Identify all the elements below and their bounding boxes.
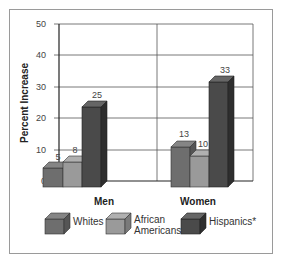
y-tick-labels: 0 10 20 30 40 50 (36, 19, 46, 186)
legend-item-hispanics: Hispanics* (181, 213, 256, 234)
value-label: 13 (179, 129, 189, 139)
men-bars: 5 8 25 (43, 90, 107, 187)
bar-women-hispanics (209, 76, 234, 187)
bar-men-hispanics (82, 101, 107, 187)
group-label-men: Men (94, 196, 114, 207)
y-tick: 20 (36, 113, 46, 123)
y-tick: 40 (36, 50, 46, 60)
value-label: 10 (198, 139, 208, 149)
group-label-women: Women (180, 196, 216, 207)
value-label: 33 (220, 65, 230, 75)
value-label: 25 (92, 90, 102, 100)
legend-label: Whites (73, 216, 104, 227)
y-tick: 30 (36, 82, 46, 92)
y-axis-label: Percent Increase (19, 63, 30, 143)
value-label: 5 (55, 152, 60, 162)
legend-label: Americans (134, 225, 181, 236)
women-bars: 13 10 33 (171, 65, 234, 187)
y-tick: 10 (36, 145, 46, 155)
legend-label: African (134, 214, 165, 225)
legend-item-whites: Whites (45, 213, 104, 234)
legend: Whites African Americans Hispanics* (45, 213, 256, 236)
y-tick: 50 (36, 19, 46, 29)
legend-item-african-americans: African Americans (106, 213, 181, 236)
bar-chart: 0 10 20 30 40 50 Percent Increase 5 8 25 (0, 0, 282, 263)
legend-label: Hispanics* (209, 216, 256, 227)
value-label: 8 (72, 145, 77, 155)
